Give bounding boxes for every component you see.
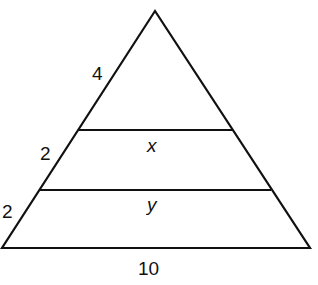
label-left-upper: 4 — [92, 63, 103, 84]
label-left-lower: 2 — [2, 201, 13, 222]
triangle-diagram: 4 2 2 x y 10 — [0, 0, 318, 285]
label-segment-y: y — [145, 194, 158, 215]
label-segment-x: x — [146, 135, 158, 156]
label-left-middle: 2 — [40, 143, 51, 164]
label-base: 10 — [138, 258, 159, 279]
